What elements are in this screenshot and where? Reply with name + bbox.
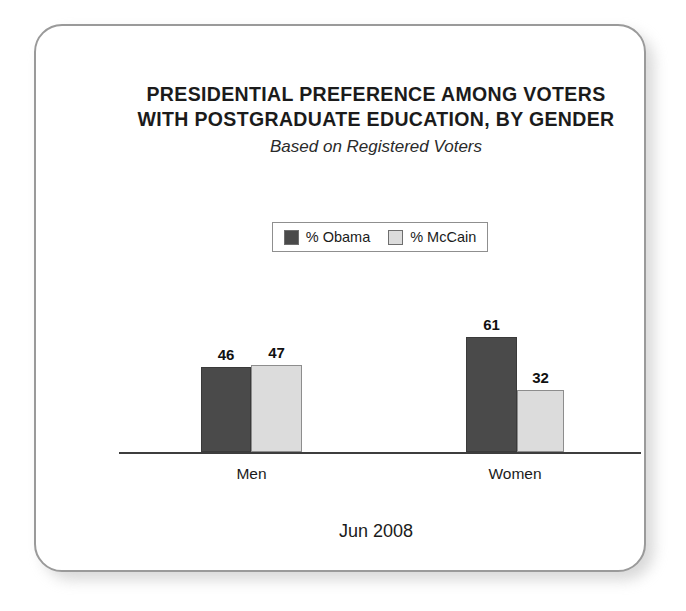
chart-page: PRESIDENTIAL PREFERENCE AMONG VOTERS WIT… [0, 0, 686, 611]
bar-women-obama: 61 [466, 337, 517, 452]
legend-label-mccain: % McCain [410, 229, 476, 245]
period-label: Jun 2008 [70, 521, 682, 542]
chart-card: PRESIDENTIAL PREFERENCE AMONG VOTERS WIT… [34, 24, 646, 572]
bar-value-men-mccain: 47 [268, 344, 285, 361]
x-axis-line [119, 452, 641, 454]
legend-label-obama: % Obama [306, 229, 370, 245]
chart-title-line-2: WITH POSTGRADUATE EDUCATION, BY GENDER [70, 107, 682, 132]
legend-entry-obama: % Obama [284, 229, 370, 245]
bar-value-men-obama: 46 [218, 346, 235, 363]
legend-swatch-mccain [388, 230, 403, 245]
chart-legend: % Obama % McCain [272, 222, 488, 252]
bar-group-women-bars: 61 32 [466, 337, 564, 452]
bar-value-women-mccain: 32 [532, 369, 549, 386]
legend-entry-mccain: % McCain [388, 229, 476, 245]
bar-men-obama: 46 [201, 367, 251, 452]
category-label-men: Men [201, 465, 302, 483]
chart-title-line-1: PRESIDENTIAL PREFERENCE AMONG VOTERS [70, 82, 682, 107]
legend-swatch-obama [284, 230, 299, 245]
bar-group-men-bars: 46 47 [201, 365, 302, 452]
title-block: PRESIDENTIAL PREFERENCE AMONG VOTERS WIT… [70, 82, 682, 159]
bar-value-women-obama: 61 [483, 316, 500, 333]
bar-men-mccain: 47 [251, 365, 302, 452]
chart-subtitle: Based on Registered Voters [70, 135, 682, 159]
bar-women-mccain: 32 [517, 390, 564, 452]
plot-area: 46 47 Men 61 32 Women [119, 276, 641, 454]
category-label-women: Women [466, 465, 564, 483]
